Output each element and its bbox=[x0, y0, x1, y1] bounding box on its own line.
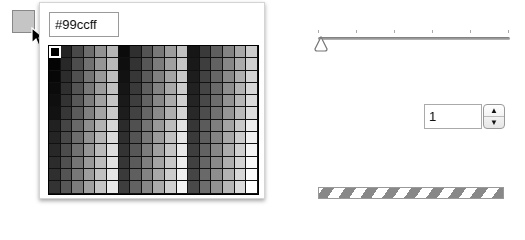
color-cell[interactable] bbox=[153, 58, 165, 70]
color-cell[interactable] bbox=[49, 95, 61, 107]
color-cell[interactable] bbox=[246, 58, 258, 70]
color-cell[interactable] bbox=[61, 107, 73, 119]
color-cell[interactable] bbox=[188, 157, 200, 169]
color-cell[interactable] bbox=[188, 169, 200, 181]
color-cell[interactable] bbox=[200, 132, 212, 144]
color-cell[interactable] bbox=[130, 132, 142, 144]
color-cell[interactable] bbox=[61, 95, 73, 107]
color-cell[interactable] bbox=[177, 71, 189, 83]
color-cell[interactable] bbox=[235, 132, 247, 144]
color-cell[interactable] bbox=[95, 58, 107, 70]
color-cell[interactable] bbox=[177, 58, 189, 70]
color-cell[interactable] bbox=[188, 107, 200, 119]
color-cell[interactable] bbox=[235, 95, 247, 107]
color-cell[interactable] bbox=[119, 181, 131, 193]
color-cell[interactable] bbox=[119, 58, 131, 70]
color-cell[interactable] bbox=[61, 46, 73, 58]
color-cell[interactable] bbox=[119, 120, 131, 132]
color-cell[interactable] bbox=[84, 83, 96, 95]
color-cell[interactable] bbox=[95, 157, 107, 169]
color-cell[interactable] bbox=[153, 157, 165, 169]
color-cell[interactable] bbox=[130, 181, 142, 193]
color-cell[interactable] bbox=[84, 46, 96, 58]
color-cell[interactable] bbox=[84, 71, 96, 83]
color-cell[interactable] bbox=[223, 71, 235, 83]
color-cell[interactable] bbox=[119, 132, 131, 144]
color-cell[interactable] bbox=[165, 46, 177, 58]
increment-button[interactable]: ▲ bbox=[484, 105, 504, 117]
color-cell[interactable] bbox=[84, 120, 96, 132]
color-cell[interactable] bbox=[49, 181, 61, 193]
color-cell[interactable] bbox=[200, 58, 212, 70]
color-cell[interactable] bbox=[211, 120, 223, 132]
color-cell[interactable] bbox=[72, 107, 84, 119]
color-cell[interactable] bbox=[49, 132, 61, 144]
color-cell[interactable] bbox=[211, 95, 223, 107]
color-cell[interactable] bbox=[188, 132, 200, 144]
color-cell[interactable] bbox=[72, 181, 84, 193]
color-cell[interactable] bbox=[165, 107, 177, 119]
slider-track[interactable] bbox=[318, 37, 510, 40]
color-cell[interactable] bbox=[72, 71, 84, 83]
color-cell[interactable] bbox=[107, 83, 119, 95]
color-cell[interactable] bbox=[72, 120, 84, 132]
color-cell[interactable] bbox=[165, 132, 177, 144]
color-cell[interactable] bbox=[130, 144, 142, 156]
color-cell[interactable] bbox=[223, 46, 235, 58]
color-cell[interactable] bbox=[235, 46, 247, 58]
color-cell[interactable] bbox=[211, 107, 223, 119]
color-cell[interactable] bbox=[177, 120, 189, 132]
color-cell[interactable] bbox=[153, 71, 165, 83]
color-cell[interactable] bbox=[200, 120, 212, 132]
color-cell[interactable] bbox=[107, 181, 119, 193]
stepper-input[interactable]: 1 bbox=[424, 104, 482, 129]
color-cell[interactable] bbox=[223, 157, 235, 169]
color-cell[interactable] bbox=[153, 169, 165, 181]
color-cell[interactable] bbox=[72, 169, 84, 181]
color-cell[interactable] bbox=[72, 144, 84, 156]
color-cell[interactable] bbox=[49, 46, 61, 58]
color-cell[interactable] bbox=[235, 58, 247, 70]
color-cell[interactable] bbox=[188, 58, 200, 70]
color-cell[interactable] bbox=[130, 169, 142, 181]
color-cell[interactable] bbox=[200, 107, 212, 119]
color-cell[interactable] bbox=[142, 169, 154, 181]
color-cell[interactable] bbox=[95, 120, 107, 132]
color-cell[interactable] bbox=[153, 120, 165, 132]
color-cell[interactable] bbox=[200, 83, 212, 95]
color-cell[interactable] bbox=[72, 83, 84, 95]
color-cell[interactable] bbox=[61, 71, 73, 83]
color-cell[interactable] bbox=[246, 169, 258, 181]
color-cell[interactable] bbox=[130, 83, 142, 95]
color-cell[interactable] bbox=[142, 120, 154, 132]
color-cell[interactable] bbox=[246, 181, 258, 193]
color-cell[interactable] bbox=[223, 107, 235, 119]
color-cell[interactable] bbox=[49, 144, 61, 156]
color-cell[interactable] bbox=[49, 58, 61, 70]
color-cell[interactable] bbox=[177, 157, 189, 169]
color-cell[interactable] bbox=[49, 83, 61, 95]
color-cell[interactable] bbox=[223, 83, 235, 95]
color-cell[interactable] bbox=[84, 181, 96, 193]
color-cell[interactable] bbox=[72, 58, 84, 70]
color-cell[interactable] bbox=[107, 107, 119, 119]
color-cell[interactable] bbox=[165, 83, 177, 95]
color-cell[interactable] bbox=[188, 181, 200, 193]
color-cell[interactable] bbox=[107, 46, 119, 58]
color-cell[interactable] bbox=[200, 169, 212, 181]
color-cell[interactable] bbox=[223, 181, 235, 193]
color-cell[interactable] bbox=[223, 95, 235, 107]
color-cell[interactable] bbox=[61, 144, 73, 156]
color-cell[interactable] bbox=[119, 71, 131, 83]
color-cell[interactable] bbox=[200, 144, 212, 156]
color-cell[interactable] bbox=[84, 144, 96, 156]
color-cell[interactable] bbox=[142, 95, 154, 107]
color-cell[interactable] bbox=[165, 120, 177, 132]
color-cell[interactable] bbox=[246, 83, 258, 95]
color-cell[interactable] bbox=[95, 132, 107, 144]
color-cell[interactable] bbox=[153, 95, 165, 107]
color-cell[interactable] bbox=[246, 71, 258, 83]
color-cell[interactable] bbox=[84, 169, 96, 181]
color-cell[interactable] bbox=[130, 46, 142, 58]
color-cell[interactable] bbox=[211, 71, 223, 83]
